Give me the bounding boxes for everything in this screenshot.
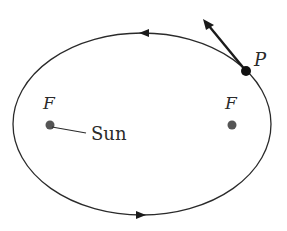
orbit-direction-arrow-bottom (136, 211, 146, 219)
orbit-direction-arrow-top (139, 29, 149, 37)
point-label-p: P (253, 49, 267, 70)
orbit-diagram: F F Sun P (0, 0, 287, 231)
sun-leader-line (52, 127, 86, 133)
planet-point-p (241, 66, 251, 76)
focus-dot-right (228, 121, 237, 130)
sun-label: Sun (91, 123, 127, 144)
focus-dot-left (46, 121, 55, 130)
focus-label-right: F (224, 93, 238, 113)
focus-label-left: F (42, 93, 56, 113)
